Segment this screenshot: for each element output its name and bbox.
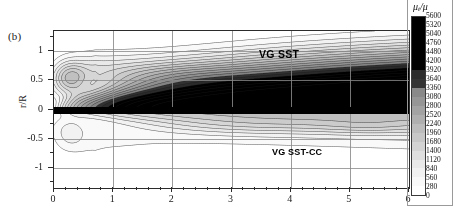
colorbar-band [412, 133, 425, 142]
x-tick-major [53, 187, 54, 192]
figure-panel-b: (b) r/R VG SST VG SST-CC 0123456 10.50-0… [0, 0, 453, 220]
colorbar-tick-label: 1400 [426, 147, 441, 155]
colorbar-band [412, 35, 425, 44]
colorbar-band [412, 177, 425, 186]
y-tick-label: -0.5 [13, 132, 43, 143]
x-tick-minor [373, 187, 374, 190]
colorbar: μt/μ 56005320504047604480420039203640336… [411, 14, 451, 206]
colorbar-gradient [411, 16, 426, 196]
colorbar-tick-label: 1960 [426, 129, 441, 137]
colorbar-tick-label: 5040 [426, 30, 441, 38]
colorbar-band [412, 79, 425, 88]
colorbar-tick-label: 280 [426, 183, 437, 191]
colorbar-tick-label: 840 [426, 165, 437, 173]
colorbar-band [412, 26, 425, 35]
colorbar-band [412, 70, 425, 79]
contour-plot-area: VG SST VG SST-CC [53, 30, 410, 189]
x-tick-major [112, 187, 113, 192]
x-tick-minor [65, 187, 66, 190]
x-tick-minor [302, 187, 303, 190]
colorbar-tick-label: 3360 [426, 84, 441, 92]
x-tick-minor [183, 187, 184, 190]
x-tick-minor [242, 187, 243, 190]
colorbar-band [412, 97, 425, 106]
x-tick-label: 0 [41, 193, 65, 204]
colorbar-tick-label: 2240 [426, 120, 441, 128]
colorbar-tick-label: 2520 [426, 111, 441, 119]
x-tick-minor [325, 187, 326, 190]
y-tick-label: 0.5 [13, 73, 43, 84]
x-tick-minor [124, 187, 125, 190]
colorbar-band [412, 160, 425, 169]
colorbar-tick-label: 5320 [426, 21, 441, 29]
x-tick-label: 4 [278, 193, 302, 204]
label-vg-sst-cc: VG SST-CC [272, 147, 322, 157]
x-tick-minor [313, 187, 314, 190]
x-tick-minor [337, 187, 338, 190]
y-tick-minor [50, 181, 53, 182]
colorbar-tick-labels: 5600532050404760448042003920364033603080… [426, 14, 452, 196]
x-tick-minor [148, 187, 149, 190]
colorbar-tick-label: 3080 [426, 93, 441, 101]
y-tick-major [48, 138, 53, 139]
x-tick-minor [207, 187, 208, 190]
x-tick-minor [195, 187, 196, 190]
colorbar-tick-label: 1120 [426, 156, 441, 164]
y-tick-minor [50, 94, 53, 95]
colorbar-tick-label: 4200 [426, 57, 441, 65]
colorbar-tick-label: 4480 [426, 48, 441, 56]
gridline-horizontal [54, 168, 409, 169]
x-tick-major [231, 187, 232, 192]
colorbar-tick-label: 560 [426, 174, 437, 182]
x-tick-label: 5 [337, 193, 361, 204]
y-tick-minor [50, 36, 53, 37]
colorbar-band [412, 186, 425, 195]
x-tick-minor [361, 187, 362, 190]
gridline-horizontal [54, 139, 409, 140]
x-tick-label: 1 [100, 193, 124, 204]
centreline-band [54, 107, 409, 114]
x-tick-major [171, 187, 172, 192]
x-tick-minor [278, 187, 279, 190]
y-tick-minor [50, 65, 53, 66]
y-tick-minor [50, 123, 53, 124]
gridline-horizontal [54, 51, 409, 52]
colorbar-band [412, 151, 425, 160]
colorbar-tick-label: 3640 [426, 75, 441, 83]
x-tick-minor [384, 187, 385, 190]
colorbar-tick-label: 4760 [426, 39, 441, 47]
x-tick-minor [100, 187, 101, 190]
x-tick-major [349, 187, 350, 192]
y-tick-label: 1 [13, 44, 43, 55]
x-tick-label: 2 [159, 193, 183, 204]
y-tick-label: 0 [13, 103, 43, 114]
panel-label: (b) [8, 30, 21, 42]
x-tick-minor [77, 187, 78, 190]
label-vg-sst: VG SST [259, 48, 299, 60]
colorbar-tick-label: 2800 [426, 102, 441, 110]
x-tick-minor [89, 187, 90, 190]
colorbar-band [412, 142, 425, 151]
gridline-horizontal [54, 80, 409, 81]
colorbar-tick-label: 1680 [426, 138, 441, 146]
y-tick-major [48, 50, 53, 51]
colorbar-tick-label: 0 [426, 192, 430, 200]
x-tick-major [290, 187, 291, 192]
x-tick-minor [266, 187, 267, 190]
colorbar-band [412, 17, 425, 26]
colorbar-band [412, 115, 425, 124]
colorbar-tick-label: 3920 [426, 66, 441, 74]
y-tick-major [48, 167, 53, 168]
colorbar-band [412, 62, 425, 71]
x-tick-minor [160, 187, 161, 190]
x-tick-minor [396, 187, 397, 190]
colorbar-band [412, 106, 425, 115]
y-tick-label: -1 [13, 161, 43, 172]
x-tick-minor [219, 187, 220, 190]
colorbar-band [412, 124, 425, 133]
x-tick-label: 3 [219, 193, 243, 204]
x-tick-minor [136, 187, 137, 190]
colorbar-band [412, 44, 425, 53]
y-tick-major [48, 109, 53, 110]
colorbar-band [412, 53, 425, 62]
